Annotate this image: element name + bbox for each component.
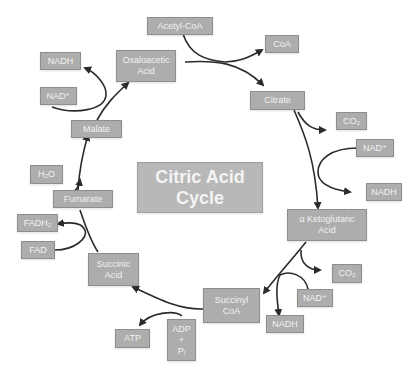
node-nadh-3: NADH (40, 52, 81, 70)
citric-acid-cycle-diagram: Citric Acid Cycle Acetyl-CoA CoA Oxaloac… (0, 0, 419, 381)
node-alpha-ketoglutaric-acid: α Ketoglutaric Acid (287, 209, 367, 241)
node-adp-pi: ADP + Pᵢ (167, 319, 196, 361)
node-co2-2: CO₂ (332, 264, 362, 283)
node-nad-3: NAD⁺ (40, 87, 77, 105)
node-atp: ATP (115, 329, 150, 348)
node-succinic-acid: Succinic Acid (88, 253, 139, 286)
node-citrate: Citrate (250, 91, 305, 110)
node-oxaloacetic-acid: Oxaloacetic Acid (116, 50, 176, 82)
node-acetyl-coa: Acetyl-CoA (147, 17, 213, 35)
node-nad-1: NAD⁺ (356, 139, 394, 157)
cycle-title: Citric Acid Cycle (155, 167, 244, 209)
node-malate: Malate (71, 120, 122, 138)
node-nad-2: NAD⁺ (297, 289, 333, 307)
node-co2-1: CO₂ (336, 112, 367, 130)
node-coa: CoA (265, 35, 299, 53)
node-succinyl-coa: Succinyl CoA (203, 288, 260, 323)
cycle-title-box: Citric Acid Cycle (137, 162, 263, 213)
node-fumarate: Fumarate (53, 190, 113, 208)
node-nadh-2: NADH (266, 315, 304, 333)
node-nadh-1: NADH (366, 183, 402, 201)
node-fadh2: FADH₂ (17, 214, 58, 232)
node-h2o: H₂O (30, 165, 63, 184)
node-fad: FAD (21, 241, 55, 259)
